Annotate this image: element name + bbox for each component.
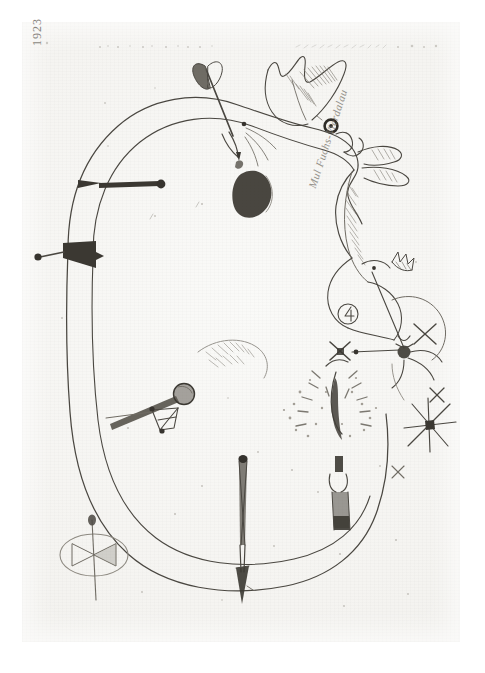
star-burst-right <box>392 364 456 452</box>
spray-burst <box>283 360 377 440</box>
artwork-sheet: 1923 Mul Fuchs-Vierdalau pencil and ink … <box>0 0 485 673</box>
left-dart-upper <box>78 180 165 189</box>
belly-tuft <box>198 340 267 378</box>
inscription-year: 1923 <box>30 18 45 46</box>
right-creature-cluster <box>328 252 446 388</box>
arrow-bottom <box>236 545 253 604</box>
hatched-flank <box>345 172 368 282</box>
x-mark-lower <box>392 466 404 478</box>
seal-oval-stamp <box>60 515 128 601</box>
ball-on-stick <box>106 384 195 434</box>
drawing-canvas <box>0 0 485 673</box>
dark-seed-blob <box>232 161 272 218</box>
left-dart-lower <box>34 241 104 268</box>
dotted-rule-top <box>46 42 437 104</box>
needle-right <box>329 456 350 530</box>
needle-left <box>238 455 247 545</box>
ear-flaps <box>358 146 409 186</box>
